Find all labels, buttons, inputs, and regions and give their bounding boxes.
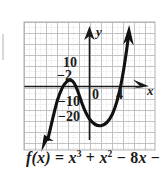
caption-arg: (x) bbox=[32, 149, 51, 166]
caption-plus: + bbox=[82, 149, 100, 166]
caption-term3-var: x bbox=[138, 149, 146, 166]
function-caption: f(x) = x3 + x2 − 8x − 12 bbox=[26, 149, 165, 173]
caption-term2-base: x bbox=[99, 149, 107, 166]
y-tick-label-minus20: −20 bbox=[58, 109, 80, 124]
caption-term4: − 12 bbox=[147, 149, 165, 166]
y-axis-label: y bbox=[94, 24, 102, 39]
y-tick-label-minus10: −10 bbox=[58, 94, 80, 109]
x-tick-label-4: 4 bbox=[116, 87, 123, 102]
cubic-function-figure: 10 −2 −10 −20 0 4 y x f(x) = x3 + x2 − 8… bbox=[0, 0, 165, 173]
caption-term1-base: x bbox=[69, 149, 77, 166]
graph-plot-area: 10 −2 −10 −20 0 4 y x bbox=[0, 0, 165, 173]
origin-label: 0 bbox=[92, 87, 99, 102]
x-tick-label-minus2: −2 bbox=[57, 68, 72, 83]
caption-term3: − 8 bbox=[113, 149, 139, 166]
caption-equals: = bbox=[51, 149, 69, 166]
x-axis-label: x bbox=[146, 83, 154, 98]
